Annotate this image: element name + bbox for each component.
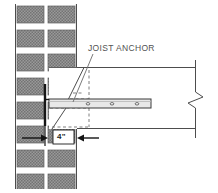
block: [48, 150, 75, 167]
joist-anchor-detail-drawing: JOIST ANCHOR 4": [0, 0, 218, 193]
block: [17, 174, 44, 191]
block: [17, 126, 44, 143]
block: [17, 54, 44, 71]
block: [17, 102, 44, 119]
anchor-hole: [110, 103, 114, 105]
block: [17, 6, 44, 23]
floor-joist-group: [49, 67, 196, 129]
anchor-hole: [86, 103, 90, 105]
block: [48, 6, 75, 23]
bearing-dimension-label: 4": [57, 133, 66, 141]
joist-anchor-label: JOIST ANCHOR: [88, 44, 155, 53]
block: [17, 78, 44, 95]
block: [17, 150, 44, 167]
block: [48, 174, 75, 191]
block: [48, 30, 75, 47]
block: [17, 30, 44, 47]
anchor-hole: [135, 103, 139, 105]
arrow-left-icon: [77, 135, 84, 142]
detail-drawing-canvas: [0, 0, 218, 193]
